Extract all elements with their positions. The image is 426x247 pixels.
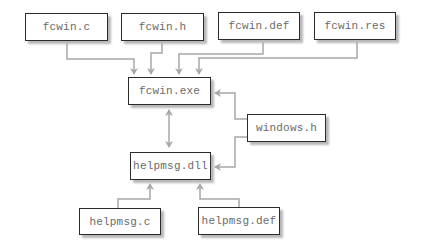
edge-helpmsg-def-to-dll — [200, 184, 239, 207]
node-fcwin-exe: fcwin.exe — [128, 77, 211, 105]
node-label: fcwin.exe — [139, 85, 200, 97]
node-fcwin-def: fcwin.def — [218, 12, 300, 40]
node-windows-h: windows.h — [247, 114, 326, 142]
node-helpmsg-c: helpmsg.c — [79, 208, 161, 235]
edge-windows-h-to-exe — [215, 93, 247, 119]
node-helpmsg-dll: helpmsg.dll — [130, 152, 211, 180]
node-label: helpmsg.def — [202, 215, 277, 227]
edge-helpmsg-c-to-dll — [118, 184, 150, 208]
edge-windows-h-to-dll — [215, 137, 247, 167]
node-helpmsg-def: helpmsg.def — [198, 207, 280, 235]
dependency-diagram: fcwin.c fcwin.h fcwin.def fcwin.res fcwi… — [0, 0, 426, 247]
edge-fcwin-c-to-exe — [67, 43, 134, 74]
edge-fcwin-res-to-exe — [199, 42, 357, 74]
node-fcwin-h: fcwin.h — [121, 13, 204, 41]
node-label: fcwin.c — [43, 21, 91, 33]
node-label: helpmsg.dll — [133, 160, 208, 172]
edge-fcwin-h-to-exe — [151, 43, 162, 74]
node-label: fcwin.def — [228, 20, 289, 32]
node-label: fcwin.res — [324, 20, 385, 32]
node-label: windows.h — [256, 122, 317, 134]
node-label: helpmsg.c — [89, 216, 150, 228]
node-fcwin-c: fcwin.c — [25, 13, 108, 41]
node-fcwin-res: fcwin.res — [314, 12, 396, 40]
node-label: fcwin.h — [139, 21, 187, 33]
